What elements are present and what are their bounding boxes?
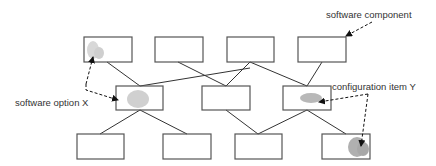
label-configuration-item: configuration item Y xyxy=(332,82,416,92)
dashed-arrows xyxy=(86,22,372,146)
box-top-3 xyxy=(227,37,274,62)
option-blobs xyxy=(87,41,369,157)
label-software-component: software component xyxy=(326,10,412,20)
box-bottom-1 xyxy=(77,134,124,159)
box-bottom-2 xyxy=(163,134,211,159)
box-top-2 xyxy=(155,37,203,62)
box-middle-b xyxy=(202,86,250,110)
boxes xyxy=(77,37,370,159)
box-bottom-3 xyxy=(235,134,282,159)
box-top-4 xyxy=(298,37,346,62)
label-software-option: software option X xyxy=(15,98,88,108)
